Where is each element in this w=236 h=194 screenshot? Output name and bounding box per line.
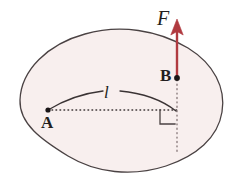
point-label-a: A xyxy=(41,114,53,131)
arc-length-label-l: l xyxy=(104,84,109,101)
point-a-dot xyxy=(45,107,50,112)
point-b-dot xyxy=(174,75,180,81)
diagram-canvas xyxy=(0,0,236,194)
force-label-f: F xyxy=(157,8,169,28)
point-label-b: B xyxy=(160,67,171,84)
physics-diagram-figure: F B A l xyxy=(0,0,236,194)
rigid-body-shape xyxy=(20,29,223,172)
